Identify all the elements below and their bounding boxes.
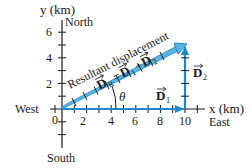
angle-arc bbox=[112, 86, 116, 109]
west-label: West bbox=[15, 102, 39, 116]
d2-subscript: 2 bbox=[203, 73, 207, 82]
vector-diagram: 0 2 4 6 8 10 2 4 6 y (km) North x (km) E… bbox=[0, 0, 251, 168]
x-tick-labels: 0 2 4 6 8 10 bbox=[52, 113, 191, 128]
y-tick-label: 2 bbox=[46, 77, 52, 91]
east-label: East bbox=[209, 115, 230, 129]
y-tick-labels: 2 4 6 bbox=[46, 25, 52, 91]
x-tick-label: 4 bbox=[108, 114, 114, 128]
d1-subscript: 1 bbox=[166, 96, 170, 105]
theta-label: θ bbox=[119, 89, 126, 104]
north-label: North bbox=[65, 15, 93, 29]
x-tick-label: 8 bbox=[157, 114, 163, 128]
d1-label: D 1 bbox=[156, 87, 170, 105]
y-tick-label: 4 bbox=[46, 51, 52, 65]
x-tick-label: 6 bbox=[132, 114, 138, 128]
d2-label: D 2 bbox=[193, 64, 207, 82]
y-tick-label: 6 bbox=[46, 25, 52, 39]
south-label: South bbox=[47, 151, 75, 165]
x-tick-label: 2 bbox=[80, 114, 86, 128]
vector-d2 bbox=[181, 47, 189, 109]
x-axis-title: x (km) bbox=[209, 101, 244, 116]
origin-label: 0 bbox=[52, 113, 58, 127]
x-tick-label: 10 bbox=[179, 114, 191, 128]
